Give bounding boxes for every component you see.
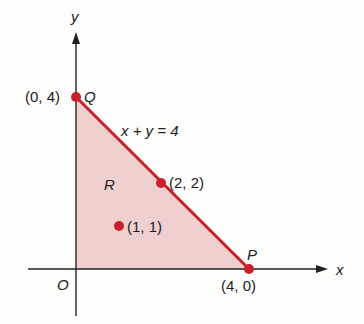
- point-p-coords: (4, 0): [221, 277, 256, 294]
- point-q: [71, 92, 81, 102]
- y-axis-label: y: [70, 8, 80, 25]
- point-1-1: [114, 221, 124, 231]
- point-p: [244, 264, 254, 274]
- x-axis-arrow-icon: [316, 265, 328, 273]
- y-axis-arrow-icon: [72, 32, 80, 44]
- point-1-1-coords: (1, 1): [127, 218, 162, 235]
- point-p-name: P: [247, 246, 257, 263]
- point-q-name: Q: [84, 88, 96, 105]
- point-2-2-coords: (2, 2): [169, 174, 204, 191]
- origin-label: O: [57, 276, 69, 293]
- line-equation-label: x + y = 4: [120, 122, 179, 139]
- x-axis-label: x: [335, 261, 344, 278]
- point-q-coords: (0, 4): [25, 88, 60, 105]
- point-2-2: [156, 178, 166, 188]
- region-label: R: [104, 176, 115, 193]
- plot-svg: y x O (0, 4) Q P (4, 0) (2, 2) (1, 1) R …: [0, 0, 364, 324]
- diagram-canvas: y x O (0, 4) Q P (4, 0) (2, 2) (1, 1) R …: [0, 0, 364, 324]
